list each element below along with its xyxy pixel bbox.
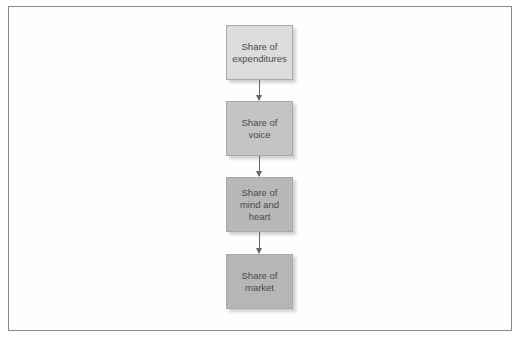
node-share-of-mind-and-heart: Share of mind and heart: [226, 177, 293, 232]
node-label: Share of expenditures: [232, 41, 286, 65]
arrow-down-icon: [259, 156, 260, 176]
node-share-of-expenditures: Share of expenditures: [226, 25, 293, 80]
node-share-of-voice: Share of voice: [226, 101, 293, 156]
node-share-of-market: Share of market: [226, 254, 293, 309]
arrow-down-icon: [259, 80, 260, 100]
node-label: Share of voice: [242, 117, 278, 141]
node-label: Share of mind and heart: [240, 187, 279, 223]
node-label: Share of market: [242, 270, 278, 294]
arrow-down-icon: [259, 232, 260, 253]
